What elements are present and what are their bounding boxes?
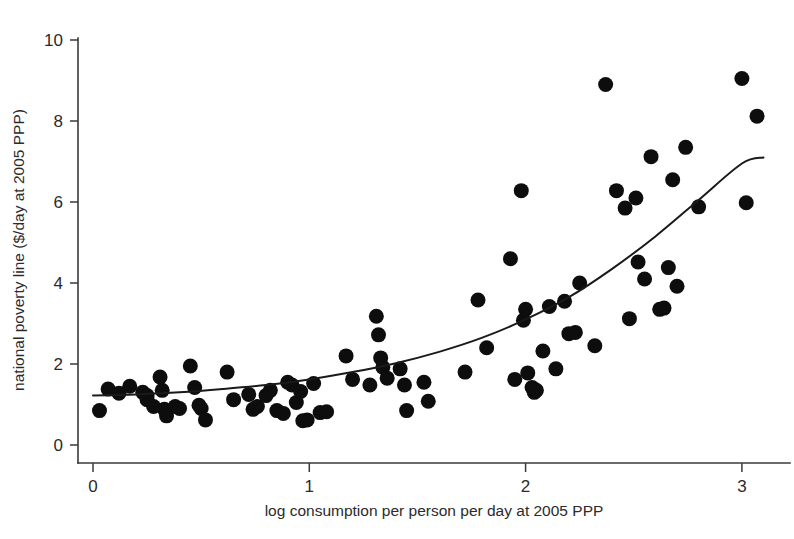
scatter-point [369,309,384,324]
scatter-point [345,372,360,387]
scatter-point [362,378,377,393]
scatter-point [734,71,749,86]
data-points-group [92,71,765,428]
scatter-point [241,387,256,402]
scatter-point [172,401,187,416]
scatter-point [458,365,473,380]
scatter-point [628,190,643,205]
scatter-point [380,371,395,386]
x-axis-title: log consumption per person per day at 20… [265,502,604,519]
scatter-point [479,340,494,355]
x-tick-label: 0 [88,477,97,496]
y-tick-label: 10 [44,31,63,50]
scatter-point [371,327,386,342]
scatter-point [661,260,676,275]
scatter-point [339,348,354,363]
y-tick-label: 4 [54,274,63,293]
scatter-point [226,392,241,407]
scatter-point [155,383,170,398]
scatter-point [739,195,754,210]
y-tick-group: 0246810 [44,31,78,455]
scatter-point [520,365,535,380]
x-tick-label: 1 [305,477,314,496]
scatter-point [587,338,602,353]
scatter-point [187,380,202,395]
scatter-point [657,301,672,316]
scatter-point [542,299,557,314]
scatter-point [548,361,563,376]
y-tick-label: 0 [54,436,63,455]
scatter-point [319,404,334,419]
scatter-point [421,394,436,409]
scatter-point [622,311,637,326]
scatter-point [665,172,680,187]
x-tick-label: 2 [521,477,530,496]
x-tick-group: 0123 [88,463,746,496]
scatter-point [503,251,518,266]
scatter-point [507,372,522,387]
scatter-point [276,406,291,421]
chart-figure: 0246810 0123 log consumption per person … [0,0,794,539]
y-tick-label: 2 [54,355,63,374]
x-tick-label: 3 [737,477,746,496]
scatter-point [535,344,550,359]
scatter-point [416,375,431,390]
scatter-point [518,302,533,317]
scatter-point [678,140,693,155]
scatter-point [183,359,198,374]
scatter-plot: 0246810 0123 log consumption per person … [0,0,794,539]
scatter-point [598,77,613,92]
y-tick-label: 6 [54,193,63,212]
scatter-point [397,378,412,393]
y-axis-title: national poverty line ($/day at 2005 PPP… [10,109,27,391]
scatter-point [220,365,235,380]
scatter-point [300,412,315,427]
scatter-point [670,279,685,294]
scatter-point [631,254,646,269]
scatter-point [153,369,168,384]
scatter-point [691,199,706,214]
scatter-point [568,325,583,340]
scatter-point [750,109,765,124]
scatter-point [198,412,213,427]
scatter-point [644,149,659,164]
scatter-point [399,403,414,418]
scatter-point [529,383,544,398]
scatter-point [514,183,529,198]
scatter-point [293,384,308,399]
scatter-point [637,271,652,286]
scatter-point [92,403,107,418]
scatter-point [471,293,486,308]
scatter-point [609,183,624,198]
scatter-point [122,379,137,394]
y-tick-label: 8 [54,112,63,131]
